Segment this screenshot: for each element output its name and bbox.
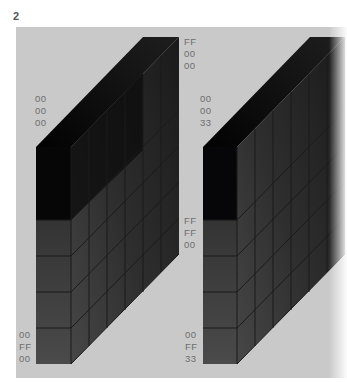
label-left-back-top: FF0000	[184, 36, 197, 72]
color-cube-slices	[0, 0, 347, 383]
label-right-front-top: 000033	[200, 93, 212, 129]
label-left-front-bottom: 00FF00	[19, 329, 32, 365]
label-right-front-bottom: 00FF33	[185, 329, 198, 365]
left-cube	[36, 37, 179, 364]
label-left-front-top: 000000	[35, 93, 47, 129]
page-edge-fade	[329, 27, 347, 383]
right-cube	[203, 37, 345, 364]
label-left-side-middle: FFFF00	[184, 215, 197, 251]
